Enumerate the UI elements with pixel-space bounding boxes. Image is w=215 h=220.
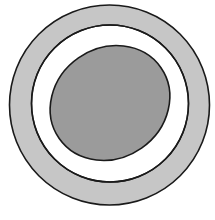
concentric-shapes-diagram: [0, 0, 215, 220]
diagram-canvas: [0, 0, 215, 220]
